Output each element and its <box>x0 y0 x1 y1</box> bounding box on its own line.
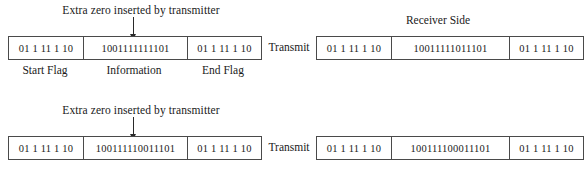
arrow-shaft <box>133 117 134 135</box>
receiver-side-heading: Receiver Side <box>316 14 560 26</box>
receiver-frame-top: 01 1 11 1 10 10011111011101 01 1 11 1 10 <box>316 36 584 60</box>
end-flag-cell: 01 1 11 1 10 <box>187 37 261 59</box>
label-end-flag: End Flag <box>186 64 260 76</box>
information-cell: 100111110011101 <box>83 137 187 159</box>
start-flag-cell: 01 1 11 1 10 <box>9 37 83 59</box>
annotation-extra-zero-bottom: Extra zero inserted by transmitter <box>8 104 274 117</box>
transmit-label-top: Transmit <box>262 41 316 53</box>
annotation-text: Extra zero inserted by transmitter <box>8 104 274 117</box>
label-start-flag: Start Flag <box>8 64 82 76</box>
start-flag-cell: 01 1 11 1 10 <box>9 137 83 159</box>
arrow-shaft <box>133 17 134 35</box>
transmitter-frame-top: 01 1 11 1 10 1001111111101 01 1 11 1 10 <box>8 36 262 60</box>
transmit-label-bottom: Transmit <box>262 141 316 153</box>
start-flag-cell: 01 1 11 1 10 <box>317 137 391 159</box>
transmitter-frame-bottom: 01 1 11 1 10 100111110011101 01 1 11 1 1… <box>8 136 262 160</box>
information-cell: 1001111111101 <box>83 37 187 59</box>
annotation-text: Extra zero inserted by transmitter <box>8 4 274 17</box>
end-flag-cell: 01 1 11 1 10 <box>187 137 261 159</box>
end-flag-cell: 01 1 11 1 10 <box>509 137 583 159</box>
information-cell: 100111100011101 <box>391 137 509 159</box>
information-cell: 10011111011101 <box>391 37 509 59</box>
field-labels-top: Start Flag Information End Flag <box>8 64 260 76</box>
label-information: Information <box>82 64 186 76</box>
start-flag-cell: 01 1 11 1 10 <box>317 37 391 59</box>
end-flag-cell: 01 1 11 1 10 <box>509 37 583 59</box>
receiver-frame-bottom: 01 1 11 1 10 100111100011101 01 1 11 1 1… <box>316 136 584 160</box>
annotation-extra-zero-top: Extra zero inserted by transmitter <box>8 4 274 17</box>
